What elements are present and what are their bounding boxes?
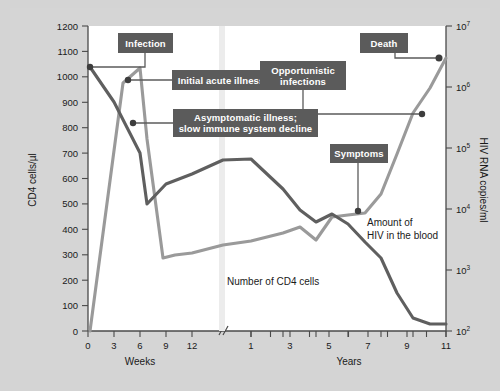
ytick-right-1e2: 102 <box>456 325 471 337</box>
xaxis-title-weeks: Weeks <box>125 356 155 367</box>
callout-initial-acute-illness-text: Initial acute illness <box>178 75 265 86</box>
series-hiv-viral-load <box>90 58 446 331</box>
xtick-year-5: 5 <box>326 340 331 351</box>
callout-opportunistic-infections-line1: Opportunistic <box>271 65 335 76</box>
ytick-left-800: 800 <box>62 122 78 133</box>
annotation-dot-asymptomatic-illness <box>130 120 136 126</box>
inline-label-hiv-blood: Amount of HIV in the blood <box>367 217 438 241</box>
callout-asymptomatic-illness-line2: slow immune system decline <box>179 123 313 134</box>
ytick-left-400: 400 <box>62 224 78 235</box>
ytick-left-1200: 1200 <box>57 21 78 32</box>
xtick-week-3: 3 <box>111 340 116 351</box>
xtick-week-0: 0 <box>85 340 90 351</box>
xtick-year-9: 9 <box>404 340 409 351</box>
annotation-leader-infection <box>87 53 145 70</box>
axis-left: 0 100 200 300 400 500 600 700 800 900 10… <box>57 21 88 337</box>
chart-svg: 0 100 200 300 400 500 600 700 800 900 10… <box>10 8 490 370</box>
annotation-dot-infection <box>87 64 93 70</box>
callout-asymptomatic-illness[interactable]: Asymptomatic illness; slow immune system… <box>173 109 318 137</box>
svg-text:Amount of: Amount of <box>367 217 413 228</box>
callout-infection-text: Infection <box>125 38 165 49</box>
ytick-right-1e5: 105 <box>456 142 471 154</box>
figure-panel: 0 100 200 300 400 500 600 700 800 900 10… <box>10 8 490 370</box>
ytick-left-1000: 1000 <box>57 71 78 82</box>
annotation-leader-symptoms <box>355 163 361 214</box>
xtick-year-11: 11 <box>441 340 451 351</box>
axis-bottom-year-labels: 1357911 <box>225 339 460 352</box>
annotation-leader-initial-acute-illness <box>125 77 172 83</box>
annotation-leader-asymptomatic-illness <box>130 120 173 126</box>
ytick-left-0: 0 <box>73 326 78 337</box>
svg-text:HIV in the blood: HIV in the blood <box>367 230 438 241</box>
callout-initial-acute-illness[interactable]: Initial acute illness <box>172 70 270 90</box>
callout-death-text: Death <box>371 38 398 49</box>
xaxis-title-years: Years <box>336 356 361 367</box>
callout-opportunistic-infections-line2: infections <box>280 76 326 87</box>
xtick-week-12: 12 <box>187 340 198 351</box>
chart-screenshot: 0 100 200 300 400 500 600 700 800 900 10… <box>0 0 500 391</box>
xtick-year-7: 7 <box>365 340 370 351</box>
ytick-right-1e3: 103 <box>456 264 471 276</box>
xtick-week-9: 9 <box>163 340 168 351</box>
ytick-left-700: 700 <box>62 148 78 159</box>
ytick-left-500: 500 <box>62 198 78 209</box>
axis-right: 102 103 104 105 106 107 <box>446 20 471 337</box>
annotation-dot-initial-acute-illness <box>125 77 131 83</box>
ytick-left-300: 300 <box>62 249 78 260</box>
ytick-right-1e6: 106 <box>456 81 471 93</box>
yaxis-title-right: HIV RNA copies/ml <box>478 137 489 222</box>
ytick-right-1e7: 107 <box>456 20 471 32</box>
xtick-year-3: 3 <box>287 340 292 351</box>
ytick-left-1100: 1100 <box>58 46 78 57</box>
ytick-left-100: 100 <box>62 300 78 311</box>
xtick-year-1: 1 <box>248 340 253 351</box>
callout-opportunistic-infections[interactable]: Opportunistic infections <box>260 61 346 90</box>
ytick-left-200: 200 <box>62 275 78 286</box>
annotation-dot-symptoms <box>355 208 361 214</box>
ytick-left-600: 600 <box>62 173 78 184</box>
inline-label-cd4-cells: Number of CD4 cells <box>227 276 319 287</box>
callout-infection[interactable]: Infection <box>118 33 173 53</box>
svg-text:Number of CD4 cells: Number of CD4 cells <box>227 276 319 287</box>
annotation-dot-death <box>436 55 443 62</box>
ytick-left-900: 900 <box>62 97 78 108</box>
callout-death[interactable]: Death <box>360 33 408 53</box>
ytick-right-1e4: 104 <box>456 203 471 215</box>
yaxis-title-left: CD4 cells/µl <box>27 153 38 207</box>
xtick-week-6: 6 <box>137 340 142 351</box>
callout-asymptomatic-illness-line1: Asymptomatic illness; <box>194 112 297 123</box>
callout-symptoms-text: Symptoms <box>334 148 383 159</box>
callout-symptoms[interactable]: Symptoms <box>330 144 388 163</box>
annotation-dot-opportunistic-infections <box>419 111 425 117</box>
